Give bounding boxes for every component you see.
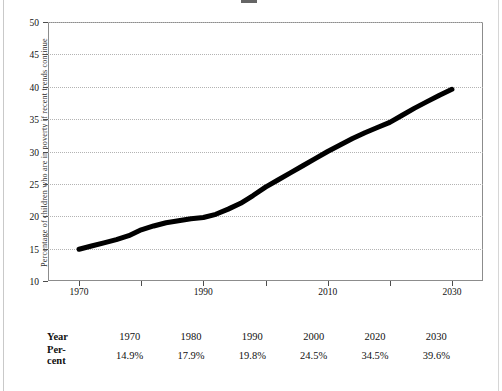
summary-data-table: Year 197019801990200020202030 Per- cent … <box>47 330 467 367</box>
clipped-title-fragment <box>241 0 257 3</box>
x-tick-2000 <box>266 281 267 286</box>
table-cell-percent: 24.5% <box>283 343 344 367</box>
table-cell-percent: 39.6% <box>406 343 467 367</box>
y-tick-label-25: 25 <box>30 180 40 190</box>
x-tick-2020 <box>390 281 391 286</box>
table-cell-year: 1970 <box>99 330 160 343</box>
table-cell-year: 1990 <box>222 330 283 343</box>
table-cell-year: 2030 <box>406 330 467 343</box>
x-tick-label-1970: 1970 <box>70 287 89 297</box>
page-border-left <box>3 0 4 391</box>
chart-plot-area: 101520253035404550 1970199020102030 <box>48 22 483 281</box>
table-cell-percent: 14.9% <box>99 343 160 367</box>
table-row-percent: Per- cent 14.9%17.9%19.8%24.5%34.5%39.6% <box>47 343 467 367</box>
x-tick-label-2030: 2030 <box>442 287 461 297</box>
x-tick-1970 <box>79 281 80 286</box>
x-tick-2030 <box>452 281 453 286</box>
y-tick-label-15: 15 <box>30 245 40 255</box>
table-cell-year: 2020 <box>344 330 405 343</box>
y-tick-label-10: 10 <box>30 277 40 287</box>
y-tick-label-30: 30 <box>30 148 40 158</box>
y-tick-10: 10 <box>43 281 48 282</box>
data-series-line <box>48 22 483 281</box>
table-cell-year: 2000 <box>283 330 344 343</box>
table-row-label-percent: Per- cent <box>47 343 99 367</box>
table-cell-percent: 34.5% <box>344 343 405 367</box>
x-tick-2010 <box>328 281 329 286</box>
table-cell-year: 1980 <box>160 330 221 343</box>
y-tick-label-35: 35 <box>30 115 40 125</box>
y-tick-label-20: 20 <box>30 212 40 222</box>
y-tick-label-45: 45 <box>30 50 40 60</box>
table-cell-percent: 17.9% <box>160 343 221 367</box>
y-tick-label-50: 50 <box>30 18 40 28</box>
table-cell-percent: 19.8% <box>222 343 283 367</box>
x-tick-1980 <box>141 281 142 286</box>
x-tick-1990 <box>203 281 204 286</box>
x-tick-label-2010: 2010 <box>318 287 337 297</box>
x-tick-label-1990: 1990 <box>194 287 213 297</box>
table-row-year: Year 197019801990200020202030 <box>47 330 467 343</box>
page-border-right <box>498 0 499 391</box>
table-row-label-year: Year <box>47 330 99 343</box>
poverty-trend-line <box>79 89 452 249</box>
y-tick-label-40: 40 <box>30 83 40 93</box>
